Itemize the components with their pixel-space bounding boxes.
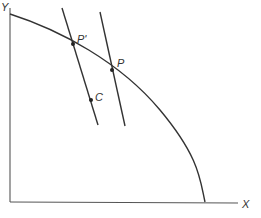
- point-c: [89, 98, 93, 102]
- point-p: [110, 68, 114, 72]
- x-axis: [10, 202, 238, 203]
- point-p-prime: [71, 42, 75, 46]
- point-p-prime-label: P': [77, 33, 87, 45]
- boundary-curve: [10, 14, 205, 202]
- x-axis-label: X: [241, 198, 250, 210]
- point-p-label: P: [117, 57, 125, 69]
- line-through-p-prime-and-c: [62, 8, 98, 125]
- point-c-label: C: [95, 91, 103, 103]
- y-axis-label: Y: [1, 1, 9, 13]
- geometry-diagram: Y X P' P C: [0, 0, 261, 218]
